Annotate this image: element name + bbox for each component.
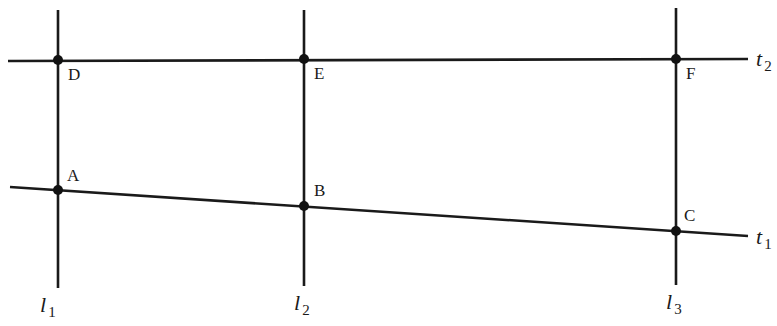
points-group bbox=[53, 54, 681, 236]
line-label-l1: l1 bbox=[40, 292, 56, 320]
labels-group: l1l2l3t2t1DEFABC bbox=[40, 46, 772, 320]
transversal-t1 bbox=[10, 187, 748, 236]
point-C bbox=[671, 226, 681, 236]
vertical-lines-group bbox=[58, 8, 676, 288]
point-E bbox=[299, 54, 309, 64]
point-label-E: E bbox=[314, 64, 324, 83]
line-label-t2: t2 bbox=[756, 46, 772, 74]
transversal-t2 bbox=[8, 59, 748, 61]
parallel-lines-diagram: l1l2l3t2t1DEFABC bbox=[0, 0, 777, 326]
point-label-D: D bbox=[68, 65, 80, 84]
point-A bbox=[53, 185, 63, 195]
transversals-group bbox=[8, 59, 748, 236]
point-label-C: C bbox=[684, 206, 695, 225]
point-F bbox=[671, 54, 681, 64]
line-label-t1: t1 bbox=[756, 224, 772, 252]
point-label-B: B bbox=[314, 181, 325, 200]
point-B bbox=[299, 201, 309, 211]
point-D bbox=[53, 55, 63, 65]
line-label-l3: l3 bbox=[666, 289, 682, 317]
line-label-l2: l2 bbox=[294, 290, 310, 318]
point-label-A: A bbox=[67, 166, 80, 185]
point-label-F: F bbox=[686, 64, 695, 83]
